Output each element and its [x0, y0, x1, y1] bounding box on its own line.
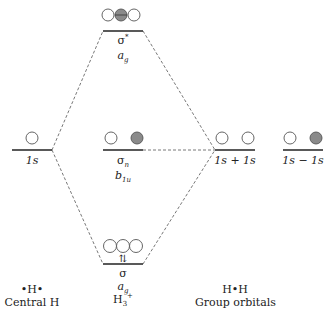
sigma-symmetry: ag	[103, 281, 143, 292]
central-h-symbol: •H•	[2, 284, 62, 295]
sigma-star-orbital-icon	[102, 9, 140, 21]
energy-levels	[12, 31, 323, 264]
sigma-star-symmetry: ag	[103, 50, 143, 61]
sigma-orbital-icon	[104, 240, 143, 253]
group-plus-label: 1s + 1s	[210, 155, 260, 166]
sigma-n-symmetry: b1u	[103, 170, 143, 181]
sigma-label: σ	[103, 268, 143, 279]
molecule-label: H3+	[103, 294, 143, 305]
group-symbol: H•H	[200, 284, 270, 295]
central-1s-orbital-icon	[26, 132, 38, 144]
sigma-n-orbital-icon	[105, 132, 143, 144]
correlation-lines	[52, 31, 215, 264]
central-h-caption: Central H	[2, 297, 62, 308]
group-minus-label: 1s − 1s	[278, 155, 328, 166]
central-1s-label: 1s	[12, 155, 52, 166]
group-caption: Group orbitals	[195, 297, 275, 308]
group-plus-orbital-icon	[216, 132, 254, 144]
group-minus-orbital-icon	[284, 132, 322, 144]
sigma-n-label: σn	[103, 155, 143, 166]
sigma-star-label: σ*	[103, 35, 143, 46]
electron-pair-icon: ⇅	[103, 254, 143, 264]
